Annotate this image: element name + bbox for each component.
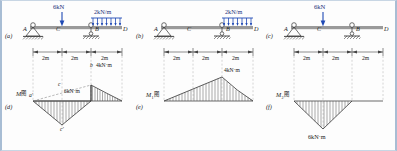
span-label-3: 2m [101,56,108,62]
panel-tag-a: (a) [5,33,12,39]
moment-value-6knm-f: 6kN·m [308,134,326,140]
moment-axis-label-e-cjk: 图 [154,92,159,97]
node-label-d: D [384,26,388,32]
point-load-label: 6kN [314,4,325,11]
hatch-f [297,101,348,128]
span-label-1: 2m [303,56,310,62]
node-label-a: A [154,26,158,32]
span-label-2: 2m [71,56,78,62]
panel-b-drawing [133,1,266,151]
panel-tag-f: (f) [266,104,272,110]
node-label-c: C [317,26,321,32]
span-label-2: 2m [332,56,339,62]
panel-a: (a) A C B D 6kN 2kN/m 2m 2m 2m (d) M 图 a… [2,1,135,151]
node-label-b: B [95,26,99,32]
node-label-d: D [254,26,258,32]
moment-axis-label-d-cjk: 图 [21,91,26,96]
point-label-c: c [58,82,60,88]
node-label-c: C [187,26,191,32]
span-label-3: 2m [362,56,369,62]
node-label-a: A [23,26,27,32]
node-label-a: A [284,26,288,32]
panel-tag-e: (e) [136,104,143,110]
panel-tag-d: (d) [5,104,12,110]
beam-member [291,26,383,29]
point-label-b: b [90,63,93,69]
beam-member [30,26,122,29]
guide-lines [164,56,253,101]
moment-axis-label-e-base: M [146,92,151,98]
point-load-arrow [60,12,65,26]
panel-b: (b) A C B D 2kN/m 2m 2m 2m (e) M 1 图 4kN… [133,1,266,151]
span-label-1: 2m [42,56,49,62]
hatch-negative-d [36,101,87,124]
point-load-arrow [321,12,326,26]
beam-member [161,26,253,29]
node-label-b: B [226,26,230,32]
span-label-1: 2m [173,56,180,62]
moment-value-6knm-d: 6kN·m [64,89,80,95]
moment-axis-label-f-cjk: 图 [284,92,289,97]
node-label-d: D [123,26,127,32]
distributed-load-label: 2kN/m [94,9,111,15]
span-label-3: 2m [232,56,239,62]
hatch-e [167,77,251,101]
panel-c: (c) A C B D 6kN 2m 2m 2m (f) M 2 图 6kN·m [263,1,396,151]
node-label-b: B [356,26,360,32]
point-label-c-prime: c' [60,127,64,133]
moment-value-4knm-d: 4kN·m [96,63,112,69]
point-load-label: 6kN [53,4,64,11]
distributed-load-label: 2kN/m [225,9,242,15]
node-label-c: C [56,26,60,32]
panel-tag-c: (c) [266,33,273,39]
guide-lines [294,56,383,129]
panel-tag-b: (b) [136,33,143,39]
span-label-2: 2m [202,56,209,62]
moment-curve-bd-e [222,77,253,101]
moment-value-4knm-e: 4kN·m [224,68,240,74]
panel-c-drawing [263,1,396,151]
panel-a-drawing [2,1,135,151]
figure-frame: (a) A C B D 6kN 2kN/m 2m 2m 2m (d) M 图 a… [0,0,397,151]
moment-axis-label-f-base: M [276,92,281,98]
point-label-a-prime: a' [29,93,33,99]
